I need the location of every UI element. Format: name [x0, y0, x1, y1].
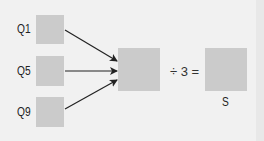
averaging-diagram: Q1 Q5 Q9 ÷ 3 = S [0, 0, 264, 141]
result-label: S [222, 96, 229, 108]
sum-box [118, 48, 160, 91]
arrow-q1-icon [65, 30, 117, 61]
divide-by-three-operator: ÷ 3 = [170, 65, 199, 78]
result-box [205, 48, 247, 91]
arrow-q9-icon [65, 80, 117, 109]
